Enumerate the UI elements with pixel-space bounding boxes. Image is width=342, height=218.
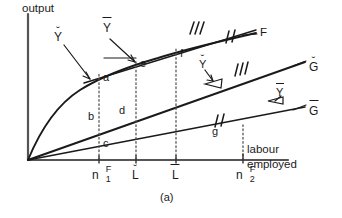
symbol-n-F-1: n F 1 bbox=[92, 169, 106, 181]
nsym-superscript: F bbox=[250, 165, 256, 174]
sym-base: Y bbox=[276, 87, 283, 98]
symbol-Y-breve: Y ˘ bbox=[199, 59, 206, 70]
breve-accent-icon: ˘ bbox=[201, 53, 205, 64]
point-label-b: b bbox=[88, 111, 94, 122]
symbol-G-breve: G ˘ bbox=[309, 61, 318, 73]
breve-accent-icon: ˘ bbox=[56, 25, 60, 36]
x-axis-title-line1: labour bbox=[247, 144, 279, 156]
curve-label-F: F bbox=[260, 27, 267, 39]
hatch-double-F bbox=[226, 30, 235, 43]
symbol-L-bar: L bbox=[172, 169, 179, 181]
nsym-base: n bbox=[236, 168, 243, 182]
annotation-label-Ybar-right: Y bbox=[276, 83, 283, 99]
x-tick-label-nF2: n F 2 bbox=[236, 166, 250, 182]
curve-label-Gbar: G bbox=[309, 102, 318, 118]
point-label-e: e bbox=[140, 58, 146, 69]
connector-F-label bbox=[243, 34, 257, 35]
point-label-c: c bbox=[103, 138, 109, 149]
macron-accent-icon bbox=[309, 100, 318, 101]
point-label-f: f bbox=[180, 48, 183, 59]
figure-canvas bbox=[0, 0, 342, 218]
x-tick-label-nF1: n F 1 bbox=[92, 166, 106, 182]
annotation-label-Ybreve-mid: Y ˘ bbox=[199, 55, 206, 71]
symbol-L-breve: L ˘ bbox=[132, 169, 139, 181]
nsym-superscript: F bbox=[106, 165, 112, 174]
line-Ybar-tangent bbox=[84, 30, 256, 83]
symbol-Y-breve: Y ˘ bbox=[54, 31, 62, 43]
symbol-n-F-2: n F 2 bbox=[236, 169, 250, 181]
point-label-g: g bbox=[212, 126, 218, 137]
macron-accent-icon bbox=[171, 164, 180, 165]
symbol-G-bar: G bbox=[309, 105, 318, 117]
nsym-subscript: 2 bbox=[250, 175, 255, 184]
breve-accent-icon: ˘ bbox=[312, 55, 316, 66]
hatch-triple-Gbreve bbox=[235, 62, 248, 76]
curve-label-Gbreve: G ˘ bbox=[309, 58, 318, 74]
breve-accent-icon: ˘ bbox=[134, 163, 138, 174]
economics-figure: output labour employed n F 1 L ˘ L n F 2… bbox=[0, 0, 342, 218]
curve-F bbox=[28, 33, 256, 160]
nsym-subscript: 1 bbox=[106, 175, 111, 184]
leader-Ybreve-left bbox=[64, 45, 90, 79]
nsym-base: n bbox=[92, 168, 99, 182]
connector-Gbreve-label bbox=[293, 61, 306, 66]
sym-base: Y bbox=[103, 22, 111, 34]
symbol-Y-bar: Y bbox=[103, 22, 111, 34]
macron-accent-icon bbox=[276, 83, 284, 84]
x-tick-label-Lbreve: L ˘ bbox=[132, 166, 139, 182]
point-label-a: a bbox=[103, 72, 109, 83]
point-label-d: d bbox=[119, 105, 125, 116]
annotation-label-Ybar-left: Y bbox=[103, 19, 111, 35]
annotation-label-Ybreve-left: Y ˘ bbox=[54, 28, 62, 44]
x-tick-label-Lbar: L bbox=[172, 166, 179, 182]
sym-base: G bbox=[309, 105, 318, 117]
macron-accent-icon bbox=[103, 17, 112, 18]
panel-label: (a) bbox=[160, 192, 173, 203]
leader-Ybreve-mid bbox=[205, 70, 213, 81]
symbol-Y-bar: Y bbox=[276, 87, 283, 98]
y-axis-title: output bbox=[22, 3, 54, 15]
sym-base: L bbox=[172, 169, 179, 181]
hatch-triple-Ybar bbox=[190, 22, 204, 34]
